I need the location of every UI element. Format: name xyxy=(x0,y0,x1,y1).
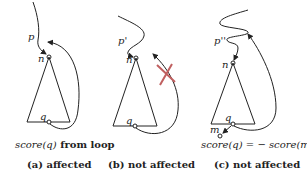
child-edge-m xyxy=(223,126,231,133)
tree-triangle-a xyxy=(27,57,70,122)
label-q-b: q xyxy=(126,115,132,126)
label-q-a: q xyxy=(40,111,46,122)
annotation-a: score(q) from loop xyxy=(15,139,115,150)
label-n-c: n xyxy=(222,59,228,70)
label-p-prime: p' xyxy=(118,35,127,46)
tree-triangle-c xyxy=(211,63,255,124)
panel-a: p n q score(q) from loop (a) affected xyxy=(15,2,115,170)
label-n-a: n xyxy=(38,53,44,64)
node-q-c xyxy=(231,122,235,126)
panel-c: p'' n q m score(q) = − score(m) (c) not … xyxy=(201,10,307,170)
tree-triangle-b xyxy=(113,58,157,126)
label-n-b: n xyxy=(126,54,132,65)
node-q-a xyxy=(47,120,51,124)
path-curve-a xyxy=(33,2,46,54)
loop-arrow-a xyxy=(48,42,79,129)
caption-a: (a) affected xyxy=(27,159,92,170)
caption-c: (c) not affected xyxy=(214,159,300,170)
diagram: p n q score(q) from loop (a) affected p'… xyxy=(0,0,307,179)
panel-b: p' n q (b) not affected xyxy=(108,16,195,170)
label-p: p xyxy=(28,31,35,42)
blocked-x-icon xyxy=(157,64,175,85)
annotation-c: score(q) = − score(m) xyxy=(201,139,307,150)
label-m-c: m xyxy=(210,124,219,135)
label-p-double-prime: p'' xyxy=(214,35,226,46)
node-q-b xyxy=(133,124,137,128)
caption-b: (b) not affected xyxy=(108,159,195,170)
diagram-canvas: p n q score(q) from loop (a) affected p'… xyxy=(0,0,307,179)
label-q-c: q xyxy=(225,112,231,123)
